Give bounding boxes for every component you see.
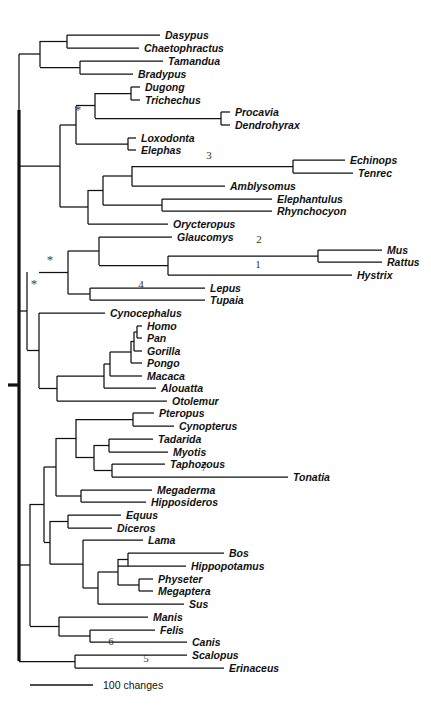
taxon-label: Trichechus <box>145 94 201 106</box>
taxon-label: Homo <box>147 320 177 332</box>
taxon-label: Megaptera <box>158 585 211 597</box>
taxon-label: Manis <box>153 611 183 623</box>
taxon-label: Orycteropus <box>173 218 236 230</box>
taxon-label: Chaetophractus <box>144 42 224 54</box>
taxon-label: Diceros <box>117 522 156 534</box>
taxon-label: Physeter <box>158 573 203 585</box>
taxon-label: Elephas <box>141 144 181 156</box>
taxon-label: Bos <box>229 547 249 559</box>
taxon-label: Pteropus <box>159 407 205 419</box>
taxon-label: Bradypus <box>138 68 187 80</box>
scale-bar-group: 100 changes <box>30 679 163 691</box>
taxon-label: Alouatta <box>160 382 203 394</box>
taxon-label: Taphozous <box>170 458 225 470</box>
taxon-label: Hipposideros <box>151 496 218 508</box>
taxon-label: Macaca <box>147 370 185 382</box>
taxon-label: Hippopotamus <box>191 560 265 572</box>
taxon-label: Hystrix <box>357 269 394 281</box>
taxon-label: Tamandua <box>168 55 220 67</box>
taxon-label: Lepus <box>210 282 241 294</box>
node-number-3: 3 <box>206 149 212 161</box>
taxon-label: Pongo <box>147 357 180 369</box>
taxon-label: Megaderma <box>157 484 216 496</box>
support-asterisks: *** <box>31 102 82 291</box>
taxon-label: Tonatia <box>293 471 330 483</box>
asterisk-euarchontoglires: * <box>47 252 54 267</box>
node-number-6: 6 <box>108 635 114 647</box>
taxon-label: Tenrec <box>358 167 392 179</box>
taxon-label: Amblysomus <box>229 180 296 192</box>
taxon-label: Tupaia <box>210 294 244 306</box>
phylogenetic-tree-figure: DasypusChaetophractusTamanduaBradypusDug… <box>0 0 431 712</box>
taxon-label: Mus <box>387 244 408 256</box>
taxon-label: Otolemur <box>172 395 220 407</box>
taxon-label: Lama <box>148 534 176 546</box>
tree-canvas: DasypusChaetophractusTamanduaBradypusDug… <box>0 0 431 712</box>
taxon-label: Procavia <box>235 106 279 118</box>
node-number-2: 2 <box>256 233 262 245</box>
taxon-label: Cynopterus <box>179 420 238 432</box>
taxon-label: Cynocephalus <box>110 307 182 319</box>
node-number-1: 1 <box>255 258 261 270</box>
taxon-label: Felis <box>160 624 184 636</box>
taxon-label: Canis <box>192 636 221 648</box>
node-number-4: 4 <box>138 278 144 290</box>
taxon-label: Sus <box>189 598 208 610</box>
asterisk-afrotheria: * <box>75 102 82 117</box>
node-number-5: 5 <box>143 652 149 664</box>
taxon-label: Myotis <box>173 446 206 458</box>
taxon-label: Gorilla <box>147 345 180 357</box>
taxon-label: Loxodonta <box>141 132 195 144</box>
asterisk-boreoeutheria: * <box>31 276 38 291</box>
scale-bar-label: 100 changes <box>103 679 163 691</box>
taxon-labels: DasypusChaetophractusTamanduaBradypusDug… <box>110 29 420 674</box>
taxon-label: Equus <box>126 509 158 521</box>
taxon-label: Scalopus <box>192 649 239 661</box>
taxon-label: Dasypus <box>165 29 209 41</box>
taxon-label: Pan <box>147 332 166 344</box>
taxon-label: Echinops <box>350 154 397 166</box>
taxon-label: Dendrohyrax <box>235 119 301 131</box>
taxon-label: Glaucomys <box>177 231 234 243</box>
taxon-label: Elephantulus <box>277 193 343 205</box>
taxon-label: Erinaceus <box>229 662 279 674</box>
taxon-label: Tadarida <box>158 433 202 445</box>
node-number-7: 7 <box>201 461 207 473</box>
taxon-label: Rhynchocyon <box>277 205 346 217</box>
taxon-label: Dugong <box>145 81 185 93</box>
taxon-label: Rattus <box>387 256 420 268</box>
